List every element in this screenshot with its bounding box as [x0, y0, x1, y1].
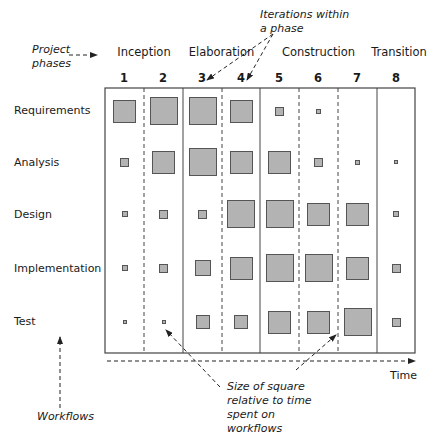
iteration-2: 2: [144, 71, 182, 85]
effort-square: [230, 151, 253, 174]
effort-square: [394, 160, 398, 164]
effort-square: [113, 100, 136, 123]
iteration-6: 6: [299, 71, 337, 85]
effort-square: [152, 151, 175, 174]
effort-square: [346, 203, 369, 226]
effort-square: [159, 210, 168, 219]
effort-square: [268, 151, 291, 174]
effort-square: [150, 97, 178, 125]
iteration-4: 4: [222, 71, 260, 85]
effort-square: [122, 265, 128, 271]
effort-square: [120, 158, 129, 167]
phase-inception: Inception: [105, 45, 183, 59]
effort-square: [305, 254, 333, 282]
workflow-requirements: Requirements: [14, 104, 90, 117]
iteration-1: 1: [105, 71, 143, 85]
effort-square: [314, 158, 323, 167]
effort-square: [392, 264, 401, 273]
effort-square: [307, 203, 330, 226]
effort-square: [122, 211, 128, 217]
iterations-label: Iterations within a phase: [260, 8, 349, 36]
effort-square: [189, 148, 217, 176]
effort-square: [227, 200, 255, 228]
effort-square: [196, 315, 210, 329]
phase-elaboration: Elaboration: [183, 45, 260, 59]
effort-square: [195, 260, 211, 276]
effort-square: [189, 97, 217, 125]
workflow-implementation: Implementation: [14, 262, 101, 275]
iteration-7: 7: [338, 71, 376, 85]
effort-square: [393, 211, 399, 217]
effort-square: [307, 311, 330, 334]
project-phases-label: Project phases: [32, 43, 71, 71]
effort-square: [346, 257, 369, 280]
workflow-test: Test: [14, 315, 36, 328]
effort-square: [162, 320, 166, 324]
effort-square: [266, 200, 294, 228]
iteration-3: 3: [183, 71, 221, 85]
iteration-8: 8: [377, 71, 415, 85]
workflows-label: Workflows: [37, 410, 94, 424]
time-label: Time: [390, 369, 417, 382]
effort-square: [230, 257, 253, 280]
workflow-design: Design: [14, 208, 52, 221]
effort-square: [316, 109, 321, 114]
effort-square: [355, 160, 360, 165]
effort-square: [392, 318, 401, 327]
effort-square: [159, 264, 168, 273]
phase-construction: Construction: [260, 45, 377, 59]
size-note: Size of square relative to time spent on…: [227, 380, 312, 436]
effort-square: [198, 210, 207, 219]
workflow-analysis: Analysis: [14, 156, 59, 169]
effort-square: [344, 308, 372, 336]
effort-square: [123, 320, 127, 324]
effort-square: [230, 100, 253, 123]
effort-square: [266, 254, 294, 282]
iteration-5: 5: [260, 71, 298, 85]
phase-transition: Transition: [369, 45, 429, 59]
effort-square: [275, 107, 284, 116]
effort-square: [268, 311, 291, 334]
effort-square: [234, 315, 248, 329]
